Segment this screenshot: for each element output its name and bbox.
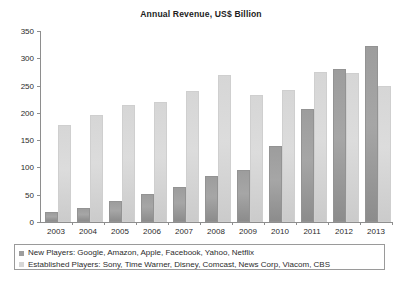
bar bbox=[154, 102, 167, 222]
x-tick-mark bbox=[296, 222, 297, 225]
chart-legend: New Players: Google, Amazon, Apple, Face… bbox=[14, 244, 385, 270]
x-tick-label: 2004 bbox=[72, 227, 104, 236]
chart-title: Annual Revenue, US$ Billion bbox=[0, 9, 402, 19]
legend-item[interactable]: Established Players: Sony, Time Warner, … bbox=[19, 259, 380, 270]
y-tick-mark bbox=[37, 86, 40, 87]
plot-area: 050100150200250300350 200320042005200620… bbox=[40, 31, 392, 222]
y-tick-label: 300 bbox=[21, 54, 34, 63]
bar bbox=[365, 46, 378, 222]
bar bbox=[122, 105, 135, 222]
y-tick-mark bbox=[37, 140, 40, 141]
bar bbox=[141, 194, 154, 222]
bar bbox=[205, 176, 218, 222]
x-tick-mark bbox=[392, 222, 393, 225]
y-tick-mark bbox=[37, 31, 40, 32]
bar-group bbox=[269, 31, 293, 222]
x-tick-label: 2005 bbox=[104, 227, 136, 236]
bar-group bbox=[365, 31, 389, 222]
bar bbox=[45, 212, 58, 222]
x-tick-mark bbox=[264, 222, 265, 225]
y-tick-label: 250 bbox=[21, 81, 34, 90]
y-tick-label: 350 bbox=[21, 27, 34, 36]
y-tick-mark bbox=[37, 113, 40, 114]
x-tick-label: 2008 bbox=[200, 227, 232, 236]
bar bbox=[346, 73, 359, 222]
bar bbox=[282, 90, 295, 222]
x-tick-label: 2007 bbox=[168, 227, 200, 236]
x-axis-line bbox=[40, 222, 392, 223]
legend-item-label: New Players: Google, Amazon, Apple, Face… bbox=[28, 248, 254, 258]
x-tick-mark bbox=[72, 222, 73, 225]
x-tick-mark bbox=[328, 222, 329, 225]
bar bbox=[378, 86, 391, 222]
bar bbox=[237, 170, 250, 222]
x-tick-label: 2013 bbox=[360, 227, 392, 236]
x-tick-label: 2003 bbox=[40, 227, 72, 236]
bar-group bbox=[45, 31, 69, 222]
y-tick-label: 150 bbox=[21, 136, 34, 145]
bar-group bbox=[205, 31, 229, 222]
bar bbox=[269, 146, 282, 222]
y-axis-line bbox=[40, 31, 41, 222]
y-tick-label: 0 bbox=[30, 218, 34, 227]
x-tick-label: 2009 bbox=[232, 227, 264, 236]
bar-group bbox=[77, 31, 101, 222]
x-tick-label: 2010 bbox=[264, 227, 296, 236]
bar bbox=[314, 72, 327, 222]
bar-group bbox=[333, 31, 357, 222]
legend-item[interactable]: New Players: Google, Amazon, Apple, Face… bbox=[19, 248, 380, 259]
x-tick-mark bbox=[200, 222, 201, 225]
y-tick-mark bbox=[37, 167, 40, 168]
x-tick-mark bbox=[232, 222, 233, 225]
x-tick-label: 2012 bbox=[328, 227, 360, 236]
x-tick-mark bbox=[168, 222, 169, 225]
bar-group bbox=[301, 31, 325, 222]
y-tick-label: 50 bbox=[25, 190, 34, 199]
y-tick-mark bbox=[37, 222, 40, 223]
legend-swatch-icon bbox=[19, 251, 24, 256]
bar-group bbox=[173, 31, 197, 222]
bar bbox=[173, 187, 186, 222]
bar bbox=[186, 91, 199, 222]
bar-group bbox=[237, 31, 261, 222]
bar bbox=[58, 125, 71, 222]
y-tick-mark bbox=[37, 195, 40, 196]
x-tick-label: 2011 bbox=[296, 227, 328, 236]
bar bbox=[250, 95, 263, 222]
bar-group bbox=[109, 31, 133, 222]
legend-item-label: Established Players: Sony, Time Warner, … bbox=[28, 260, 330, 270]
x-tick-mark bbox=[136, 222, 137, 225]
legend-swatch-icon bbox=[19, 262, 24, 267]
bar bbox=[90, 115, 103, 222]
bar bbox=[333, 69, 346, 222]
y-tick-label: 100 bbox=[21, 163, 34, 172]
x-tick-label: 2006 bbox=[136, 227, 168, 236]
bar bbox=[109, 201, 122, 222]
revenue-bar-chart: Annual Revenue, US$ Billion 050100150200… bbox=[0, 0, 402, 289]
bar-group bbox=[141, 31, 165, 222]
y-tick-label: 200 bbox=[21, 108, 34, 117]
y-tick-mark bbox=[37, 58, 40, 59]
x-tick-mark bbox=[360, 222, 361, 225]
bar bbox=[301, 109, 314, 222]
x-tick-mark bbox=[104, 222, 105, 225]
bar bbox=[218, 75, 231, 222]
bar bbox=[77, 208, 90, 222]
